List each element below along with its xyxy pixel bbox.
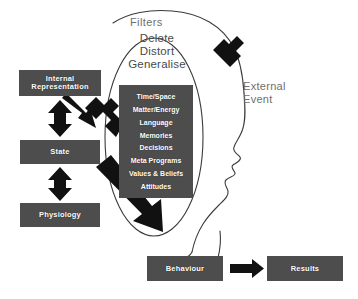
external-event-label-line1: External: [243, 80, 286, 93]
node-behaviour: Behaviour: [147, 256, 223, 281]
filter-item-language: Language: [139, 119, 172, 126]
distortion-item-distort: Distort: [113, 45, 201, 58]
behaviour-to-results-arrow: [230, 259, 264, 278]
node-state: State: [20, 140, 100, 164]
node-physiology: Physiology: [20, 203, 100, 227]
filter-item-attitudes: Attitudes: [141, 183, 171, 190]
internal-representation-state-double-arrow: [48, 100, 72, 137]
filter-item-decisions: Decisions: [139, 144, 172, 151]
nlp-communication-model-diagram: Filters External Event Delete Distort Ge…: [0, 0, 358, 299]
node-results: Results: [267, 256, 343, 281]
node-internal-representation: Internal Representation: [19, 70, 101, 96]
filters-list-box: Time/Space Matter/Energy Language Memori…: [119, 85, 193, 198]
filter-item-values-beliefs: Values & Beliefs: [129, 170, 183, 177]
filter-item-matter-energy: Matter/Energy: [133, 106, 180, 113]
filter-item-time-space: Time/Space: [137, 93, 176, 100]
distortion-processes-list: Delete Distort Generalise: [113, 32, 201, 71]
external-event-label-line2: Event: [243, 93, 286, 106]
filter-item-meta-programs: Meta Programs: [131, 157, 182, 164]
filters-label: Filters: [130, 16, 163, 28]
node-internal-representation-line2: Representation: [31, 83, 88, 91]
distortion-item-delete: Delete: [113, 32, 201, 45]
external-event-label: External Event: [243, 80, 286, 105]
distortion-item-generalise: Generalise: [113, 58, 201, 71]
state-physiology-double-arrow: [48, 167, 72, 201]
filters-to-internal-representation-arrow: [62, 93, 124, 137]
filter-item-memories: Memories: [140, 132, 173, 139]
